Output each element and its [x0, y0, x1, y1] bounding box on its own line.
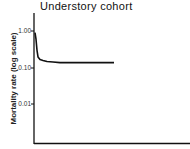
data-line [35, 33, 114, 63]
plot-area [0, 0, 190, 149]
